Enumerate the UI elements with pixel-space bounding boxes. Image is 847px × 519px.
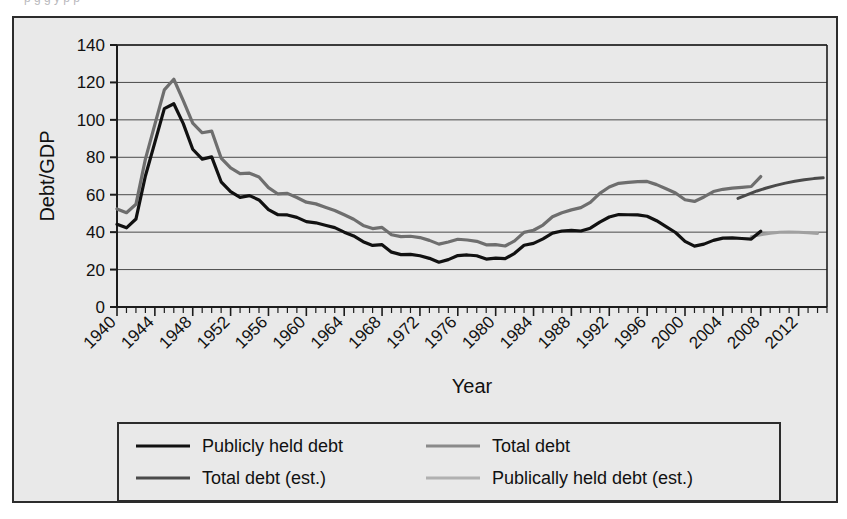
x-tick-label: 1988 [534, 312, 574, 352]
y-tick-marks [110, 45, 117, 307]
x-tick-labels: 1940194419481952195619601964196819721976… [80, 312, 802, 352]
cut-off-caption-text: p g g y p p [24, 0, 80, 5]
x-tick-label: 2008 [723, 312, 763, 352]
x-tick-label: 1940 [80, 312, 120, 352]
debt-to-gdp-line-chart: 020406080100120140 194019441948195219561… [14, 18, 840, 505]
x-tick-label: 1968 [345, 312, 385, 352]
x-tick-label: 1964 [307, 312, 347, 352]
y-tick-label: 100 [77, 111, 105, 130]
legend-box [118, 423, 780, 501]
y-axis-title: Debt/GDP [36, 130, 58, 221]
x-tick-label: 1984 [496, 312, 536, 352]
x-tick-label: 1976 [420, 312, 460, 352]
x-axis-title: Year [452, 375, 493, 397]
figure-frame: 020406080100120140 194019441948195219561… [12, 16, 838, 503]
y-tick-label: 60 [86, 186, 105, 205]
x-tick-label: 1952 [193, 312, 233, 352]
x-tick-label: 1972 [383, 312, 423, 352]
chart-plot-area: 020406080100120140 194019441948195219561… [14, 18, 840, 505]
y-tick-label: 20 [86, 261, 105, 280]
x-tick-marks [117, 307, 827, 316]
x-tick-label: 1948 [155, 312, 195, 352]
x-tick-label: 2000 [648, 312, 688, 352]
legend-label-publically-held-debt-est: Publically held debt (est.) [492, 468, 693, 488]
x-tick-label: 2012 [761, 312, 801, 352]
plot-background [117, 45, 827, 307]
y-tick-label: 120 [77, 73, 105, 92]
legend-label-total-debt-est: Total debt (est.) [202, 468, 326, 488]
y-tick-label: 140 [77, 36, 105, 55]
x-tick-label: 2004 [686, 312, 726, 352]
x-tick-label: 1956 [231, 312, 271, 352]
x-tick-label: 1996 [610, 312, 650, 352]
x-tick-label: 1960 [269, 312, 309, 352]
x-tick-label: 1992 [572, 312, 612, 352]
legend-label-total-debt: Total debt [492, 436, 570, 456]
legend-label-publicly-held-debt: Publicly held debt [202, 436, 343, 456]
x-tick-label: 1944 [118, 312, 158, 352]
y-tick-labels: 020406080100120140 [77, 36, 105, 317]
y-tick-label: 80 [86, 148, 105, 167]
cut-off-caption: p g g y p p [0, 0, 847, 9]
x-tick-label: 1980 [458, 312, 498, 352]
y-tick-label: 40 [86, 223, 105, 242]
